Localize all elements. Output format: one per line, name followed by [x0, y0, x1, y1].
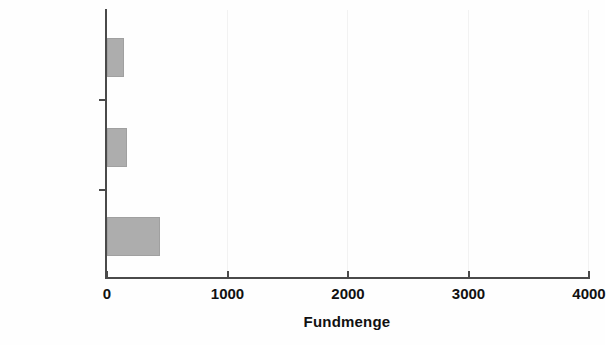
- bar: [107, 217, 160, 256]
- x-tick-label: 0: [67, 285, 147, 302]
- x-tick-label: 2000: [308, 285, 388, 302]
- x-tick-mark: [106, 271, 108, 279]
- x-tick-mark: [347, 271, 349, 279]
- x-axis-title: Fundmenge: [106, 313, 588, 330]
- bar: [107, 38, 124, 77]
- x-tick-label: 1000: [188, 285, 268, 302]
- y-tick-mark: [99, 189, 107, 191]
- x-tick-mark: [588, 271, 590, 279]
- gridline: [588, 10, 589, 278]
- x-tick-label: 4000: [549, 285, 610, 302]
- x-tick-label: 3000: [429, 285, 509, 302]
- y-tick-mark: [99, 99, 107, 101]
- gridline: [468, 10, 469, 278]
- plot-area: [106, 10, 588, 278]
- y-axis-title: Plana: [0, 0, 30, 345]
- gridline: [227, 10, 228, 278]
- bar: [107, 128, 127, 167]
- x-tick-mark: [468, 271, 470, 279]
- y-axis-line: [105, 9, 107, 279]
- gridline: [347, 10, 348, 278]
- x-tick-mark: [227, 271, 229, 279]
